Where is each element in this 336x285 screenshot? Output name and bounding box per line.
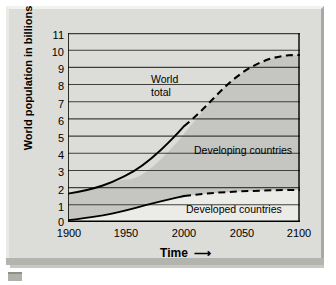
annotation-world-total-line1: World	[151, 73, 178, 86]
x-axis-title-text: Time	[160, 246, 188, 260]
y-tick-1: 1	[42, 202, 64, 213]
x-axis-title: Time⟶	[100, 246, 270, 260]
annotation-world-total-line2: total	[151, 86, 178, 99]
x-tick-2000: 2000	[172, 227, 196, 239]
y-tick-11: 11	[42, 30, 64, 41]
arrow-right-icon: ⟶	[194, 246, 210, 260]
caption-marker	[8, 272, 22, 281]
y-tick-4: 4	[42, 150, 64, 161]
y-tick-8: 8	[42, 81, 64, 92]
y-axis-title: World population in billions	[22, 0, 34, 158]
plot-area: World total Developing countries Develop…	[68, 33, 300, 222]
y-tick-5: 5	[42, 133, 64, 144]
x-tick-2100: 2100	[287, 227, 311, 239]
annotation-world-total: World total	[151, 73, 178, 99]
x-axis-ticks: 1900 1950 2000 2050 2100	[0, 227, 336, 243]
y-tick-3: 3	[42, 167, 64, 178]
population-area-chart	[68, 33, 300, 222]
x-tick-1950: 1950	[114, 227, 138, 239]
y-tick-7: 7	[42, 99, 64, 110]
x-tick-2050: 2050	[230, 227, 254, 239]
y-tick-2: 2	[42, 185, 64, 196]
annotation-developed-countries: Developed countries	[186, 203, 282, 216]
annotation-developing-countries: Developing countries	[194, 144, 292, 157]
y-tick-9: 9	[42, 64, 64, 75]
y-tick-6: 6	[42, 116, 64, 127]
y-tick-10: 10	[42, 47, 64, 58]
x-tick-1900: 1900	[57, 227, 81, 239]
